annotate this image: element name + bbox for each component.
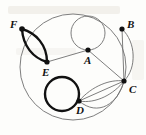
loop-D-circle (45, 77, 79, 111)
graph-figure: A B C D E F (0, 0, 146, 135)
loop-A-circle (71, 16, 105, 50)
edge-A-E-line (47, 50, 88, 62)
vertex-label-F: F (10, 19, 17, 30)
vertex-label-D: D (76, 105, 84, 116)
edge-A-C-line (88, 50, 124, 81)
vertex-B-dot (119, 26, 124, 31)
vertex-C-dot (121, 78, 126, 83)
vertex-E-dot (44, 59, 49, 64)
graph-canvas (0, 0, 146, 135)
vertex-label-A: A (84, 55, 91, 66)
vertex-D-dot (76, 98, 81, 103)
vertex-label-C: C (129, 84, 136, 95)
vertex-A-dot (85, 47, 90, 52)
outer-circle (20, 14, 126, 120)
vertex-label-B: B (127, 19, 134, 30)
vertex-F-dot (19, 26, 25, 32)
edge-B-C-straight-line (122, 29, 124, 81)
vertex-label-E: E (42, 67, 49, 78)
